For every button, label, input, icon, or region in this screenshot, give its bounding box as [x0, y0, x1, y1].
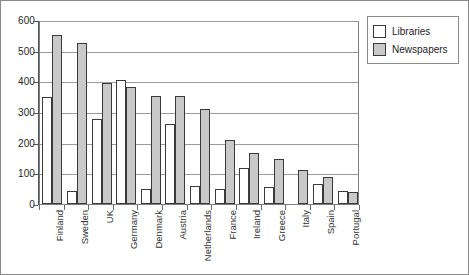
- bar-france-libraries[interactable]: [215, 189, 225, 204]
- y-tick-mark: [33, 113, 38, 114]
- bar-ireland-newspapers[interactable]: [249, 153, 259, 204]
- bars-layer: [40, 22, 358, 204]
- bar-uk-libraries[interactable]: [92, 119, 102, 204]
- y-tick-mark: [33, 174, 38, 175]
- bar-italy-newspapers[interactable]: [298, 170, 308, 204]
- bar-greece-newspapers[interactable]: [274, 159, 284, 204]
- bar-group: [67, 22, 87, 204]
- y-axis-ticks: [1, 1, 39, 275]
- chart-figure: 0100200300400500600 FinlandSwedenUKGerma…: [0, 0, 469, 275]
- x-label-uk: UK: [105, 210, 115, 223]
- x-label-italy: Italy: [301, 210, 311, 227]
- bar-group: [264, 22, 284, 204]
- x-label-greece: Greece: [277, 210, 287, 241]
- y-tick-mark: [33, 21, 38, 22]
- x-axis-labels: FinlandSwedenUKGermanyDenmarkAustriaNeth…: [39, 210, 359, 274]
- chart-legend: Libraries Newspapers: [367, 16, 459, 64]
- bar-ireland-libraries[interactable]: [239, 168, 249, 204]
- bar-portugal-newspapers[interactable]: [348, 192, 358, 204]
- bar-austria-libraries[interactable]: [165, 124, 175, 204]
- bar-group: [92, 22, 112, 204]
- x-label-spain: Spain: [326, 210, 336, 234]
- bar-group: [313, 22, 333, 204]
- bar-group: [215, 22, 235, 204]
- bar-netherlands-libraries[interactable]: [190, 186, 200, 204]
- bar-group: [141, 22, 161, 204]
- bar-group: [239, 22, 259, 204]
- bar-group: [190, 22, 210, 204]
- bar-group: [288, 22, 308, 204]
- bar-germany-newspapers[interactable]: [126, 87, 136, 204]
- legend-label-libraries: Libraries: [392, 26, 430, 37]
- x-label-austria: Austria: [178, 210, 188, 240]
- bar-denmark-newspapers[interactable]: [151, 96, 161, 204]
- legend-swatch-newspapers: [373, 43, 386, 56]
- bar-sweden-libraries[interactable]: [67, 191, 77, 204]
- bar-spain-libraries[interactable]: [313, 184, 323, 204]
- y-tick-mark: [33, 52, 38, 53]
- y-tick-mark: [33, 82, 38, 83]
- x-label-finland: Finland: [55, 210, 65, 241]
- x-label-ireland: Ireland: [252, 210, 262, 239]
- legend-label-newspapers: Newspapers: [392, 44, 448, 55]
- bar-portugal-libraries[interactable]: [338, 191, 348, 204]
- legend-item-newspapers[interactable]: Newspapers: [373, 40, 454, 58]
- x-label-denmark: Denmark: [154, 210, 164, 249]
- bar-sweden-newspapers[interactable]: [77, 43, 87, 204]
- bar-finland-libraries[interactable]: [42, 97, 52, 204]
- x-label-france: France: [228, 210, 238, 240]
- bar-netherlands-newspapers[interactable]: [200, 109, 210, 204]
- bar-uk-newspapers[interactable]: [102, 83, 112, 204]
- bar-group: [42, 22, 62, 204]
- bar-austria-newspapers[interactable]: [175, 96, 185, 204]
- bar-france-newspapers[interactable]: [225, 140, 235, 204]
- bar-group: [338, 22, 358, 204]
- x-label-sweden: Sweden: [80, 210, 90, 244]
- bar-germany-libraries[interactable]: [116, 80, 126, 204]
- plot-area: [39, 21, 359, 205]
- x-label-germany: Germany: [129, 210, 139, 249]
- y-tick-mark: [33, 144, 38, 145]
- bar-group: [116, 22, 136, 204]
- x-label-netherlands: Netherlands: [203, 210, 213, 261]
- y-tick-mark: [33, 205, 38, 206]
- bar-group: [165, 22, 185, 204]
- legend-swatch-libraries: [373, 25, 386, 38]
- bar-spain-newspapers[interactable]: [323, 177, 333, 204]
- legend-item-libraries[interactable]: Libraries: [373, 22, 454, 40]
- x-label-portugal: Portugal: [351, 210, 361, 245]
- bar-denmark-libraries[interactable]: [141, 189, 151, 204]
- bar-greece-libraries[interactable]: [264, 187, 274, 204]
- bar-finland-newspapers[interactable]: [52, 35, 62, 204]
